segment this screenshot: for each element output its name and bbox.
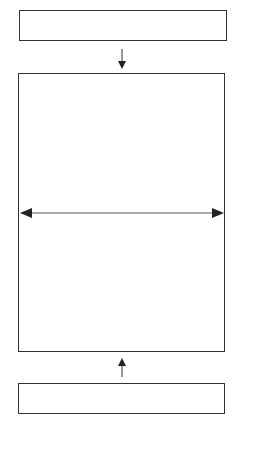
- up-arrow-icon: [118, 358, 126, 377]
- down-arrow-icon: [118, 49, 126, 69]
- double-arrow-icon: [20, 208, 224, 218]
- connectors: [0, 0, 254, 464]
